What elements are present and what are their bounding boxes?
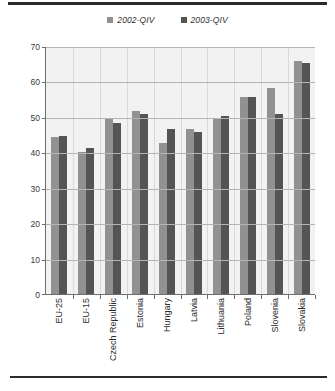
bar[interactable] <box>140 114 148 295</box>
bar[interactable] <box>86 148 94 295</box>
x-axis-category-label: Poland <box>243 298 252 326</box>
legend-item[interactable]: 2002-QIV <box>107 16 154 25</box>
x-axis-category-label: Slovakia <box>297 298 306 332</box>
x-axis-category-label: Slovenia <box>270 298 279 333</box>
bar[interactable] <box>105 118 113 295</box>
gridline-vertical <box>288 47 289 295</box>
y-axis-tick-label: 10 <box>0 256 40 265</box>
y-axis-tick-label: 70 <box>0 43 40 52</box>
plot-area <box>46 47 315 295</box>
chart-legend: 2002-QIV2003-QIV <box>0 16 335 25</box>
y-axis-tick-label: 20 <box>0 220 40 229</box>
y-axis-tick <box>42 224 46 225</box>
legend-swatch-icon <box>181 17 187 23</box>
legend-label: 2003-QIV <box>191 16 228 25</box>
gridline-vertical <box>181 47 182 295</box>
gridline-horizontal <box>46 153 315 154</box>
x-axis-category-label: Hungary <box>163 298 172 332</box>
x-axis-label-slot: Poland <box>234 298 261 376</box>
legend-swatch-icon <box>107 17 113 23</box>
y-axis-tick <box>42 189 46 190</box>
x-axis-category-label: EU-25 <box>55 298 64 324</box>
bar-group <box>132 47 148 295</box>
x-axis-line <box>45 294 315 295</box>
legend-label: 2002-QIV <box>117 16 154 25</box>
x-axis-label-slot: Hungary <box>154 298 181 376</box>
bar[interactable] <box>221 116 229 295</box>
x-axis-category-label: Czech Republic <box>109 298 118 361</box>
plot-wrapper <box>46 47 315 295</box>
gridline-horizontal <box>46 224 315 225</box>
bar[interactable] <box>275 114 283 295</box>
bar[interactable] <box>159 143 167 295</box>
gridline-vertical <box>261 47 262 295</box>
legend-item[interactable]: 2003-QIV <box>181 16 228 25</box>
gridline-vertical <box>234 47 235 295</box>
x-axis-label-slot: Estonia <box>127 298 154 376</box>
gridline-vertical <box>207 47 208 295</box>
bar[interactable] <box>51 137 59 295</box>
y-axis-tick-label: 60 <box>0 78 40 87</box>
x-axis-label-slot: Slovakia <box>288 298 315 376</box>
gridline-horizontal <box>46 82 315 83</box>
y-axis-line <box>45 47 46 295</box>
x-axis-category-labels: EU-25EU-15Czech RepublicEstoniaHungaryLa… <box>46 298 315 378</box>
gridline-horizontal <box>46 118 315 119</box>
x-axis-label-slot: Lithuania <box>207 298 234 376</box>
gridline-horizontal <box>46 260 315 261</box>
y-axis-tick-label: 0 <box>0 291 40 300</box>
bar-group <box>78 47 94 295</box>
y-axis-tick-label: 40 <box>0 149 40 158</box>
bar[interactable] <box>248 97 256 295</box>
x-axis-label-slot: Czech Republic <box>100 298 127 376</box>
bar-group <box>159 47 175 295</box>
gridline-horizontal <box>46 189 315 190</box>
bar-group <box>213 47 229 295</box>
y-axis-tick <box>42 153 46 154</box>
y-axis-tick-label: 30 <box>0 185 40 194</box>
bottom-divider-rule <box>10 376 327 378</box>
gridline-vertical <box>100 47 101 295</box>
x-axis-category-label: Estonia <box>136 298 145 328</box>
y-axis-tick <box>42 47 46 48</box>
bar-group <box>105 47 121 295</box>
bar-group <box>51 47 67 295</box>
y-axis-tick <box>42 82 46 83</box>
gridline-vertical <box>127 47 128 295</box>
x-axis-label-slot: EU-15 <box>73 298 100 376</box>
y-axis-tick-labels: 010203040506070 <box>0 47 40 295</box>
x-axis-label-slot: Latvia <box>181 298 208 376</box>
bar[interactable] <box>59 136 67 295</box>
bar-group <box>294 47 310 295</box>
top-divider-rule <box>8 2 327 5</box>
bar[interactable] <box>113 123 121 295</box>
y-axis-tick <box>42 118 46 119</box>
chart-figure: 2002-QIV2003-QIV 010203040506070 EU-25EU… <box>0 0 335 391</box>
bar-group <box>240 47 256 295</box>
x-axis-category-label: EU-15 <box>82 298 91 324</box>
x-axis-category-label: Lithuania <box>216 298 225 335</box>
bar-group <box>267 47 283 295</box>
bar[interactable] <box>194 132 202 295</box>
bar[interactable] <box>240 97 248 295</box>
bar-group <box>186 47 202 295</box>
bar[interactable] <box>132 111 140 295</box>
x-axis-label-slot: Slovenia <box>261 298 288 376</box>
x-axis-category-label: Latvia <box>189 298 198 322</box>
gridline-vertical <box>154 47 155 295</box>
bar[interactable] <box>213 118 221 295</box>
x-axis-label-slot: EU-25 <box>46 298 73 376</box>
gridline-horizontal <box>46 47 315 48</box>
gridline-vertical <box>73 47 74 295</box>
y-axis-tick-label: 50 <box>0 114 40 123</box>
x-axis-tick <box>315 295 316 299</box>
y-axis-tick <box>42 260 46 261</box>
y-axis-tick <box>42 294 46 295</box>
